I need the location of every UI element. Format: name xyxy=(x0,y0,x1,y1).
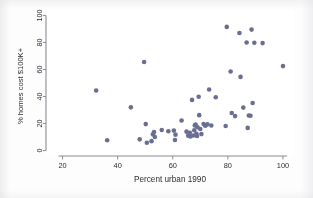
scatter-point xyxy=(213,95,218,100)
scatter-point xyxy=(197,113,202,118)
scatter-point xyxy=(152,130,157,135)
scatter-point xyxy=(173,138,178,143)
scatter-point xyxy=(228,69,233,74)
scatter-point xyxy=(143,122,148,127)
y-axis-tick-label: 20 xyxy=(35,120,44,128)
scatter-point xyxy=(142,60,147,65)
scatter-point xyxy=(207,87,212,92)
scatter-point xyxy=(149,139,154,144)
scatter-point xyxy=(249,27,254,32)
scatter-point xyxy=(248,113,253,118)
scatter-point xyxy=(159,128,164,133)
plot-canvas: 020406080100 20406080100 Percent urban 1… xyxy=(0,0,313,198)
scatter-point xyxy=(195,134,200,139)
scatter-point xyxy=(199,132,204,137)
scatter-point xyxy=(190,98,195,103)
y-axis-tick-label: 0 xyxy=(35,149,44,153)
x-axis-label: Percent urban 1990 xyxy=(134,175,206,184)
x-axis-tick-label: 100 xyxy=(277,161,289,170)
scatter-point xyxy=(224,25,229,30)
scatter-point xyxy=(250,101,255,106)
scatter-point xyxy=(145,140,150,145)
y-axis-tick-label: 100 xyxy=(35,9,44,21)
plot-area-background xyxy=(46,10,294,156)
scatter-point xyxy=(129,105,134,110)
scatter-point xyxy=(173,132,178,137)
scatter-point xyxy=(137,137,142,142)
scatter-point xyxy=(153,135,158,140)
scatter-point xyxy=(237,31,242,36)
x-axis-tick-label: 40 xyxy=(114,161,122,170)
scatter-point xyxy=(244,40,249,45)
y-axis-label: % homes cost $100K+ xyxy=(16,47,25,124)
x-axis-tick-label: 60 xyxy=(169,161,177,170)
scatter-point xyxy=(223,124,228,129)
scatter-point xyxy=(196,94,201,99)
scatter-point xyxy=(233,114,238,119)
scatter-point xyxy=(241,105,246,110)
scatter-point xyxy=(238,75,243,80)
y-axis-tick-label: 40 xyxy=(35,93,44,101)
scatter-point xyxy=(166,129,171,134)
scatter-point xyxy=(209,123,214,128)
scatter-point xyxy=(205,122,210,127)
scatter-point xyxy=(260,41,265,46)
scatter-point xyxy=(105,138,110,143)
scatter-point xyxy=(172,128,177,133)
scatter-point xyxy=(94,88,99,93)
x-axis-tick-label: 20 xyxy=(58,161,66,170)
scatter-plot-figure: 020406080100 20406080100 Percent urban 1… xyxy=(0,0,313,198)
scatter-point xyxy=(252,40,257,45)
y-axis-tick-label: 80 xyxy=(35,38,44,46)
scatter-point xyxy=(281,64,286,69)
scatter-point xyxy=(198,127,203,132)
x-axis-tick-label: 80 xyxy=(224,161,232,170)
scatter-point xyxy=(179,118,184,123)
scatter-point xyxy=(245,126,250,131)
y-axis-tick-label: 60 xyxy=(35,65,44,73)
